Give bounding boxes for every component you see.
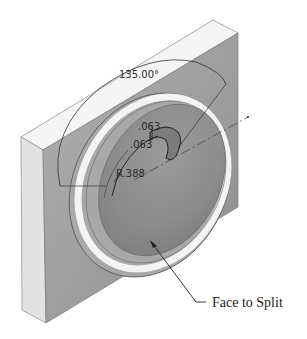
cad-model-figure: 135.00° .063 .063 R.388 Face to Split — [0, 0, 307, 339]
callout-label: Face to Split — [212, 295, 283, 310]
thickness-dimension-label-1: .063 — [138, 121, 160, 132]
radius-dimension-label: R.388 — [116, 168, 145, 179]
angle-dimension-label: 135.00° — [119, 69, 159, 80]
thickness-dimension-label-2: .063 — [130, 139, 152, 150]
axis-endpoint — [247, 116, 249, 118]
block-side-face — [21, 137, 46, 323]
